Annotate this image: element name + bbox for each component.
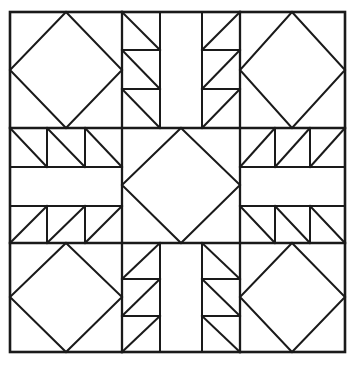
- diagram-background: [0, 0, 356, 366]
- quilt-block-diagram: [0, 0, 356, 366]
